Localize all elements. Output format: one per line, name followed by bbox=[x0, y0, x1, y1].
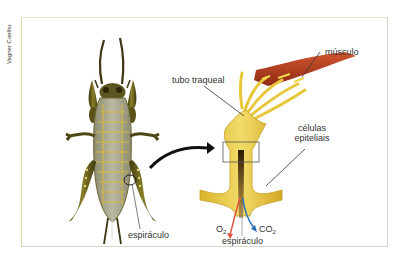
magnify-arrow bbox=[150, 148, 207, 168]
label-espiraculo-insect: espiráculo bbox=[128, 230, 169, 240]
label-o2: O2 bbox=[216, 224, 226, 237]
hind-leg-left bbox=[68, 160, 96, 222]
o2-subscript: 2 bbox=[223, 229, 226, 235]
label-musculo: músculo bbox=[325, 47, 359, 57]
label-celulas-line2: epiteliais bbox=[292, 133, 332, 143]
tubo-leader-line bbox=[204, 86, 244, 116]
label-celulas-line1: células bbox=[292, 123, 332, 133]
muscle-fiber bbox=[254, 52, 356, 86]
cercus-right bbox=[117, 218, 121, 244]
label-tubo-traqueal: tubo traqueal bbox=[172, 75, 225, 85]
o2-text: O bbox=[216, 224, 223, 234]
insect-illustration bbox=[66, 38, 159, 244]
antenna-left bbox=[100, 40, 104, 84]
antenna-right bbox=[120, 38, 123, 84]
middle-leg-right bbox=[130, 134, 159, 140]
middle-leg-left bbox=[66, 134, 95, 140]
co2-text: CO bbox=[259, 224, 273, 234]
cercus-left bbox=[104, 218, 108, 244]
label-co2: CO2 bbox=[259, 224, 276, 237]
celulas-leader-line bbox=[266, 149, 305, 186]
co2-subscript: 2 bbox=[273, 229, 276, 235]
label-espiraculo-detail: espiráculo bbox=[222, 236, 263, 246]
arrow-head-icon bbox=[207, 142, 215, 154]
diagram-illustration bbox=[0, 0, 396, 262]
label-celulas-epiteliais: células epiteliais bbox=[292, 123, 332, 143]
insect-body bbox=[94, 98, 132, 222]
tracheal-lumen bbox=[238, 150, 244, 218]
